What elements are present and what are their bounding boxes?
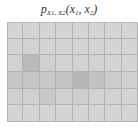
grid-cell [56, 22, 72, 39]
joint-distribution-grid [7, 22, 138, 122]
grid-cell [23, 105, 39, 122]
grid-cell [73, 105, 89, 122]
title-args-open: (x [66, 2, 75, 16]
grid-cell [56, 55, 72, 72]
grid-cell [7, 72, 23, 89]
grid-cell [105, 39, 121, 56]
grid-cell [89, 55, 105, 72]
grid-cell [56, 39, 72, 56]
grid-cell [40, 105, 56, 122]
grid-cell [73, 72, 89, 89]
grid-cell [122, 39, 138, 56]
grid-cell [56, 72, 72, 89]
grid-cell [122, 89, 138, 106]
title-sep: , x [79, 2, 90, 16]
grid-cell [105, 55, 121, 72]
grid-cell [40, 72, 56, 89]
grid-cell [40, 89, 56, 106]
grid-cell [105, 72, 121, 89]
title-close: ) [93, 2, 97, 16]
grid-cell [23, 39, 39, 56]
grid-cell [73, 22, 89, 39]
grid-cell [89, 89, 105, 106]
grid-cell [89, 39, 105, 56]
grid-cell [89, 105, 105, 122]
grid-cell [73, 89, 89, 106]
grid-cell [73, 39, 89, 56]
title-subscript: X1, X2 [47, 9, 66, 17]
grid-cell [122, 55, 138, 72]
grid-cell [23, 22, 39, 39]
grid-cell [122, 105, 138, 122]
grid-cell [40, 39, 56, 56]
grid-cell [56, 105, 72, 122]
grid-cell [56, 89, 72, 106]
grid-cell [7, 105, 23, 122]
grid-cell [23, 55, 39, 72]
grid-cell [40, 55, 56, 72]
grid-cell [7, 55, 23, 72]
grid-cell [122, 72, 138, 89]
grid-cell [7, 39, 23, 56]
grid-cell [7, 22, 23, 39]
grid-cell [7, 89, 23, 106]
grid-cell [89, 22, 105, 39]
grid-cell [105, 89, 121, 106]
plot-title: pX1, X2(x1, x2) [0, 1, 138, 21]
grid-cell [105, 105, 121, 122]
grid-cell [23, 72, 39, 89]
grid-cell [23, 89, 39, 106]
grid-cell [73, 55, 89, 72]
grid-cell [105, 22, 121, 39]
grid-cell [122, 22, 138, 39]
grid-cell [40, 22, 56, 39]
grid-cell [89, 72, 105, 89]
